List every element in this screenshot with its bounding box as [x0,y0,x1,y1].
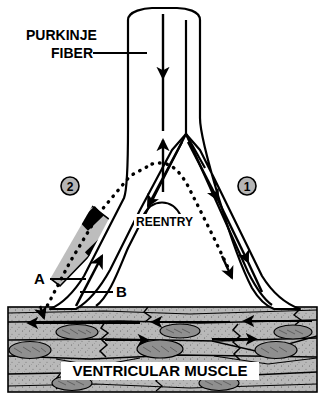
label-a: A [34,270,45,287]
badge-two-text: 2 [67,180,74,194]
purkinje-fiber-label-line2: FIBER [51,45,93,61]
diagram-canvas: PURKINJE FIBER REENTRY A B 2 1 VENTRICUL… [0,0,325,401]
badge-pathway-one: 1 [238,177,256,195]
label-b: B [116,283,127,300]
reentry-diagram: PURKINJE FIBER REENTRY A B 2 1 VENTRICUL… [0,0,325,401]
reentry-label: REENTRY [136,215,193,229]
ventricular-muscle-label: VENTRICULAR MUSCLE [73,362,248,379]
badge-pathway-two: 2 [61,177,79,195]
purkinje-fiber-label-line1: PURKINJE [26,27,97,43]
badge-one-text: 1 [244,180,251,194]
